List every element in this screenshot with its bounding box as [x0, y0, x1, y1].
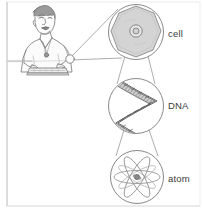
atom-illustration: [111, 151, 164, 204]
dna-illustration: [109, 79, 164, 149]
person-illustration: [8, 5, 74, 75]
cell-illustration: [109, 5, 164, 60]
illustration-figure: cell DNA atom: [0, 0, 202, 209]
label-dna: DNA: [168, 101, 189, 111]
label-cell: cell: [168, 29, 183, 39]
label-atom: atom: [168, 174, 190, 184]
magnified-point-marker: [66, 55, 74, 63]
